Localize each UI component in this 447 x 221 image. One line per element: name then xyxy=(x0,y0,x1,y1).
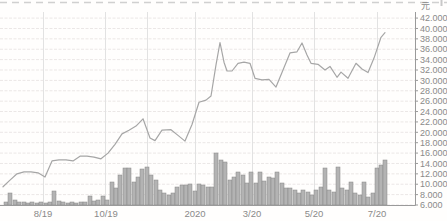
y-axis-tick-label: 20.000 xyxy=(420,128,447,138)
volume-bar xyxy=(96,200,100,205)
volume-bar xyxy=(375,168,379,205)
volume-bar xyxy=(236,172,240,205)
volume-bar xyxy=(245,183,249,205)
y-axis-tick-label: 40.000 xyxy=(420,24,447,34)
volume-bar xyxy=(123,168,127,205)
volume-bar xyxy=(79,202,83,205)
y-axis-tick-label: 36.000 xyxy=(420,44,447,54)
volume-bar xyxy=(249,172,253,205)
volume-bar xyxy=(145,167,149,205)
volume-bar xyxy=(92,201,96,205)
volume-bar xyxy=(48,202,52,205)
volume-bar xyxy=(22,202,26,205)
volume-bar xyxy=(297,193,301,205)
volume-bar xyxy=(379,165,383,205)
y-axis-tick-label: 14.000 xyxy=(420,159,447,169)
volume-bar xyxy=(232,177,236,205)
volume-bar xyxy=(323,168,327,205)
volume-bar xyxy=(371,193,375,205)
volume-bar xyxy=(61,202,65,205)
volume-bar xyxy=(223,162,227,205)
volume-bar xyxy=(127,168,131,205)
y-axis-tick-label: 6.000 xyxy=(420,200,443,210)
y-axis-tick-label: 38.000 xyxy=(420,34,447,44)
y-axis-tick-label: 34.000 xyxy=(420,55,447,65)
volume-bar xyxy=(353,193,357,205)
volume-bar xyxy=(271,178,275,205)
volume-bar xyxy=(362,182,366,205)
y-axis-tick-label: 18.000 xyxy=(420,138,447,148)
volume-bar xyxy=(83,202,87,205)
volume-bar xyxy=(13,200,17,205)
volume-bar xyxy=(301,190,305,205)
volume-bar xyxy=(206,187,210,205)
x-axis-tick-label: 8/19 xyxy=(34,208,53,219)
y-axis-tick-label: 10.000 xyxy=(420,179,447,189)
volume-bar xyxy=(366,197,370,205)
volume-bar xyxy=(74,203,78,205)
volume-bar xyxy=(57,201,61,205)
volume-bar xyxy=(101,196,105,205)
volume-bar xyxy=(132,182,136,205)
volume-bar xyxy=(35,203,39,205)
volume-bar xyxy=(262,181,266,205)
y-axis-tick-label: 30.000 xyxy=(420,76,447,86)
volume-bar xyxy=(327,190,331,205)
volume-bar xyxy=(267,177,271,205)
y-axis-tick-label: 26.000 xyxy=(420,96,447,106)
y-axis-tick-label: 42.000 xyxy=(420,13,447,23)
y-axis-tick-label: 16.000 xyxy=(420,148,447,158)
volume-bar xyxy=(332,192,336,205)
volume-bar xyxy=(219,160,223,205)
volume-bar xyxy=(340,188,344,205)
volume-bar xyxy=(175,187,179,205)
volume-bar xyxy=(158,190,162,205)
y-axis-tick-label: 8.000 xyxy=(420,190,443,200)
volume-bar xyxy=(319,187,323,205)
volume-bar xyxy=(201,185,205,205)
volume-bar xyxy=(280,183,284,205)
volume-bar xyxy=(214,153,218,205)
volume-bar xyxy=(288,188,292,205)
x-axis-tick-label: 7/20 xyxy=(368,208,387,219)
volume-bar xyxy=(8,193,12,205)
volume-bar xyxy=(66,203,70,205)
y-axis-unit-label: 元 xyxy=(421,1,430,11)
volume-bar xyxy=(336,167,340,205)
y-axis-tick-label: 32.000 xyxy=(420,65,447,75)
volume-bar xyxy=(275,172,279,205)
y-axis-tick-label: 28.000 xyxy=(420,86,447,96)
volume-bar xyxy=(149,175,153,205)
volume-bar xyxy=(188,184,192,205)
y-axis-tick-label: 12.000 xyxy=(420,169,447,179)
volume-bar xyxy=(167,195,171,205)
volume-bar xyxy=(241,175,245,205)
volume-bar xyxy=(349,182,353,205)
volume-bar xyxy=(140,169,144,205)
volume-bar xyxy=(70,202,74,205)
volume-bar xyxy=(310,195,314,205)
x-axis-tick-label: 2020 xyxy=(184,208,205,219)
volume-bar xyxy=(197,184,201,205)
volume-bar xyxy=(258,172,262,205)
y-axis-tick-label: 24.000 xyxy=(420,107,447,117)
x-axis-tick-label: 3/20 xyxy=(243,208,262,219)
volume-bar xyxy=(39,202,43,205)
price-volume-chart: 42.00040.00038.00036.00034.00032.00030.0… xyxy=(0,0,447,221)
volume-bar xyxy=(171,193,175,205)
volume-bar xyxy=(193,191,197,205)
volume-bar xyxy=(180,185,184,205)
volume-bar xyxy=(383,160,387,205)
x-axis-tick-label: 10/19 xyxy=(94,208,118,219)
volume-bar xyxy=(254,183,258,205)
volume-bar xyxy=(162,193,166,205)
volume-bar xyxy=(4,202,8,205)
volume-bar xyxy=(44,203,48,205)
volume-bar xyxy=(110,182,114,205)
volume-bar xyxy=(105,200,109,205)
volume-bar xyxy=(184,185,188,205)
stock-chart-panel: 42.00040.00038.00036.00034.00032.00030.0… xyxy=(0,0,447,221)
volume-bar xyxy=(358,195,362,205)
volume-bar xyxy=(345,190,349,205)
volume-bar xyxy=(210,187,214,205)
